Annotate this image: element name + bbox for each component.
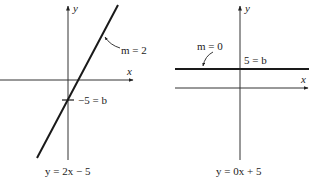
right-slope-arrow xyxy=(203,52,213,66)
left-line-y-2x-5 xyxy=(37,5,118,158)
right-slope-label: m = 0 xyxy=(197,40,223,52)
left-y-axis-label: y xyxy=(72,2,78,14)
left-intercept-label: −5 = b xyxy=(78,94,107,106)
diagram-canvas: y x m = 2 −5 = b y = 2x − 5 y x m = 0 5 … xyxy=(0,0,309,181)
left-equation: y = 2x − 5 xyxy=(45,165,91,177)
left-graph: y x m = 2 −5 = b y = 2x − 5 xyxy=(0,2,147,177)
left-slope-label: m = 2 xyxy=(121,44,147,56)
left-x-axis-label: x xyxy=(126,65,132,77)
right-graph: y x m = 0 5 = b y = 0x + 5 xyxy=(175,2,309,177)
right-x-axis-label: x xyxy=(300,73,306,85)
right-y-axis-label: y xyxy=(244,2,250,14)
right-intercept-label: 5 = b xyxy=(244,54,267,66)
right-equation: y = 0x + 5 xyxy=(216,165,262,177)
left-slope-arrow xyxy=(105,37,120,48)
